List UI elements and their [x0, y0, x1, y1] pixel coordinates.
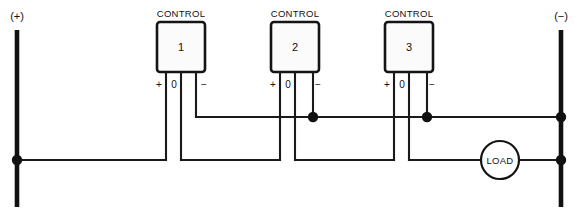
negative-rail-label: (−) [554, 10, 568, 22]
control-unit-3: CONTROL 3 + 0 − [384, 8, 435, 160]
control-unit-2: CONTROL 2 + 0 − [270, 8, 321, 160]
junction-dot-negative-rail-lower [556, 155, 566, 165]
control-3-terminal-plus-label: + [384, 79, 390, 90]
load-element: LOAD [481, 141, 519, 179]
junction-dot-control-2-minus [308, 112, 318, 122]
control-3-terminal-zero-label: 0 [399, 79, 405, 90]
control-1-terminal-minus-label: − [201, 79, 207, 90]
negative-rail-group: (−) [554, 10, 568, 207]
control-unit-1: CONTROL 1 + 0 − [156, 8, 207, 160]
control-1-number: 1 [178, 41, 184, 53]
load-label: LOAD [486, 155, 513, 166]
control-2-terminal-plus-label: + [270, 79, 276, 90]
control-1-caption: CONTROL [157, 8, 206, 19]
positive-rail-label: (+) [10, 10, 24, 22]
control-2-terminal-minus-label: − [315, 79, 321, 90]
junction-dot-control-3-minus [422, 112, 432, 122]
control-2-number: 2 [292, 41, 298, 53]
positive-rail-group: (+) [10, 10, 24, 207]
control-3-caption: CONTROL [385, 8, 434, 19]
control-2-caption: CONTROL [271, 8, 320, 19]
control-3-terminal-minus-label: − [429, 79, 435, 90]
junction-dot-positive-rail [12, 155, 22, 165]
control-1-terminal-plus-label: + [156, 79, 162, 90]
junction-dot-negative-rail-upper [556, 112, 566, 122]
control-2-terminal-zero-label: 0 [285, 79, 291, 90]
control-3-number: 3 [406, 41, 412, 53]
schematic-diagram: (+) (−) CONTROL 1 + 0 − CONTROL 2 [0, 0, 578, 215]
schematic-canvas: (+) (−) CONTROL 1 + 0 − CONTROL 2 [0, 0, 578, 215]
control-1-terminal-zero-label: 0 [171, 79, 177, 90]
